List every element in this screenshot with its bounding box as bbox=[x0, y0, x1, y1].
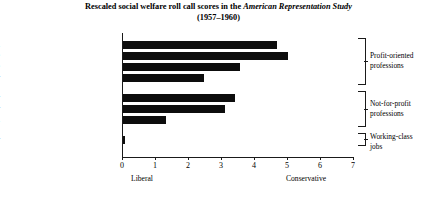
x-tick-label-0: 0 bbox=[112, 161, 132, 171]
group-label-line-2: jobs bbox=[370, 142, 413, 152]
bracket-nub bbox=[364, 139, 368, 140]
bar-technical-professional bbox=[123, 41, 277, 49]
group-label-line-2: professions bbox=[370, 61, 414, 71]
bar-farm-owner-manager bbox=[123, 74, 204, 82]
x-tick-label-1: 1 bbox=[145, 161, 165, 171]
x-axis-low-label: Liberal bbox=[131, 174, 153, 183]
group-label-line-2: professions bbox=[370, 109, 411, 119]
group-label-profit-oriented: Profit-oriented professions bbox=[370, 51, 414, 70]
x-tick-label-7: 7 bbox=[343, 161, 363, 171]
group-bracket-profit-oriented bbox=[358, 38, 366, 85]
x-tick-4 bbox=[254, 157, 255, 160]
bar-service-based-professional bbox=[123, 116, 166, 124]
bracket-nub bbox=[364, 109, 368, 110]
x-axis-line bbox=[122, 157, 353, 158]
bar-business-employee bbox=[123, 63, 240, 71]
bracket-nub bbox=[364, 61, 368, 62]
bar-business-owner-executive bbox=[123, 52, 288, 60]
x-tick-0 bbox=[122, 157, 123, 160]
group-label-not-for-profit: Not-for-profit professions bbox=[370, 99, 411, 118]
x-tick-6 bbox=[320, 157, 321, 160]
chart-figure: Rescaled social welfare roll call scores… bbox=[0, 0, 437, 197]
x-tick-label-4: 4 bbox=[244, 161, 264, 171]
x-tick-label-3: 3 bbox=[211, 161, 231, 171]
x-axis-high-label: Conservative bbox=[286, 174, 326, 183]
x-tick-1 bbox=[155, 157, 156, 160]
bar-politics-military bbox=[123, 94, 235, 102]
x-tick-2 bbox=[188, 157, 189, 160]
group-label-line-1: Working-class bbox=[370, 132, 413, 142]
group-bracket-not-for-profit bbox=[358, 91, 366, 127]
group-bracket-working-class bbox=[358, 133, 366, 146]
x-tick-label-6: 6 bbox=[310, 161, 330, 171]
x-tick-label-2: 2 bbox=[178, 161, 198, 171]
x-tick-label-5: 5 bbox=[277, 161, 297, 171]
group-label-line-1: Profit-oriented bbox=[370, 51, 414, 61]
x-tick-7 bbox=[353, 157, 354, 160]
group-label-working-class: Working-class jobs bbox=[370, 132, 413, 151]
plot-area: 0 1 2 3 4 5 6 7 Liberal Conservative Tec… bbox=[0, 0, 437, 197]
x-tick-3 bbox=[221, 157, 222, 160]
group-label-line-1: Not-for-profit bbox=[370, 99, 411, 109]
bar-lawyer bbox=[123, 105, 225, 113]
x-tick-5 bbox=[287, 157, 288, 160]
bar-worker bbox=[123, 136, 125, 144]
